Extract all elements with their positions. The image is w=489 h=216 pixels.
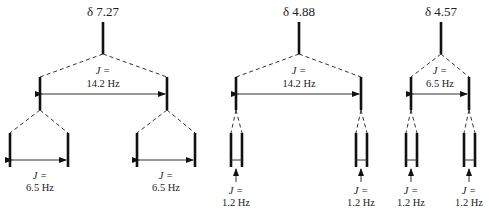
multiplet-7-27: δ 7.27 J = 14.2 Hz J = 6.5 Hz J = 6.5 Hz xyxy=(10,4,195,193)
shift-label: δ 7.27 xyxy=(87,4,120,19)
coupling-j: J = xyxy=(96,65,110,76)
split-dashes xyxy=(137,110,195,133)
coupling-value: 1.2 Hz xyxy=(397,197,425,208)
multiplet-4-57: δ 4.57 J = 6.5 Hz J = 1.2 Hz J = 1.2 Hz xyxy=(397,4,483,208)
split-dashes xyxy=(10,110,68,133)
shift-label: δ 4.88 xyxy=(283,4,315,19)
split-dashes xyxy=(231,110,242,133)
splitting-tree-diagram: δ 7.27 J = 14.2 Hz J = 6.5 Hz J = 6.5 Hz… xyxy=(0,0,489,216)
coupling-value: 1.2 Hz xyxy=(222,197,250,208)
coupling-j: J = xyxy=(433,65,447,76)
split-dashes xyxy=(464,110,475,133)
coupling-j: J = xyxy=(404,185,418,196)
coupling-value: 6.5 Hz xyxy=(26,182,54,193)
coupling-value: 1.2 Hz xyxy=(347,197,375,208)
multiplet-4-88: δ 4.88 J = 14.2 Hz J = 1.2 Hz J = 1.2 Hz xyxy=(222,4,375,208)
coupling-j: J = xyxy=(229,185,243,196)
split-dashes xyxy=(406,110,417,133)
coupling-j: J = xyxy=(354,185,368,196)
coupling-j: J = xyxy=(462,185,476,196)
coupling-value: 14.2 Hz xyxy=(86,78,120,89)
coupling-value: 6.5 Hz xyxy=(426,78,454,89)
shift-label: δ 4.57 xyxy=(425,4,458,19)
split-dashes xyxy=(356,110,367,133)
coupling-j: J = xyxy=(33,170,47,181)
coupling-j: J = xyxy=(292,65,306,76)
coupling-value: 6.5 Hz xyxy=(152,182,180,193)
coupling-j: J = xyxy=(159,170,173,181)
coupling-value: 1.2 Hz xyxy=(455,197,483,208)
coupling-value: 14.2 Hz xyxy=(282,78,316,89)
